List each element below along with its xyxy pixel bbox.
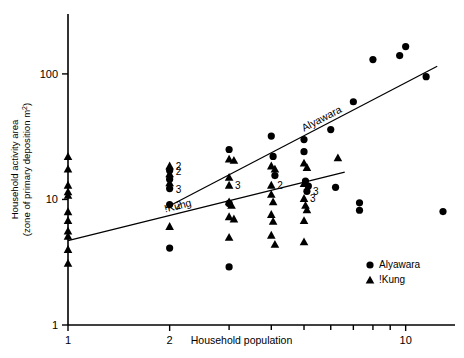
- data-point-circle: [402, 43, 409, 50]
- data-point-circle: [439, 208, 446, 215]
- data-point-triangle: [267, 210, 276, 218]
- y-tick-label: 100: [40, 68, 58, 80]
- point-count-annotation: 3: [235, 180, 241, 191]
- data-point-triangle: [300, 237, 309, 245]
- legend-label-alyawara: Alyawara: [379, 259, 421, 270]
- data-point-triangle: [64, 181, 73, 189]
- point-count-annotation: 2: [176, 161, 182, 172]
- data-point-circle: [226, 263, 233, 270]
- data-point-triangle: [269, 197, 278, 205]
- data-point-triangle: [267, 181, 276, 189]
- data-point-triangle: [301, 201, 310, 209]
- data-point-circle: [423, 73, 430, 80]
- data-point-triangle: [267, 231, 276, 239]
- x-tick-label: 2: [167, 334, 173, 346]
- data-point-triangle: [225, 181, 234, 189]
- data-point-circle: [327, 126, 334, 133]
- x-tick-label: 10: [400, 334, 412, 346]
- y-axis-title-line2: (zone of primary deposition m2): [21, 103, 33, 236]
- data-point-circle: [300, 148, 307, 155]
- data-point-triangle: [64, 207, 73, 215]
- data-point-circle: [332, 184, 339, 191]
- data-point-triangle: [64, 259, 73, 267]
- point-count-annotation: 2: [277, 180, 283, 191]
- data-point-circle: [270, 153, 277, 160]
- point-count-annotation: 3: [176, 184, 182, 195]
- data-point-triangle: [271, 240, 280, 248]
- data-point-circle: [166, 201, 173, 208]
- data-point-circle: [300, 136, 307, 143]
- x-tick-label: 1: [65, 334, 71, 346]
- data-point-triangle: [64, 245, 73, 253]
- data-point-circle: [366, 261, 373, 268]
- data-point-circle: [166, 244, 173, 251]
- data-point-circle: [396, 52, 403, 59]
- x-axis-title: Household population: [191, 334, 293, 346]
- data-point-circle: [271, 172, 278, 179]
- data-point-triangle: [334, 153, 343, 161]
- figure-container: 1101001210Alyawara!Kung23232323Household…: [0, 0, 464, 358]
- y-axis-title-line1: Household activity area: [9, 119, 20, 219]
- data-point-triangle: [366, 276, 375, 284]
- data-point-triangle: [165, 162, 174, 170]
- point-count-annotation: 2: [176, 200, 182, 211]
- data-point-circle: [356, 199, 363, 206]
- scatter-plot: 1101001210Alyawara!Kung23232323Household…: [0, 0, 464, 358]
- data-point-triangle: [269, 217, 278, 225]
- data-point-triangle: [165, 222, 174, 230]
- data-point-triangle: [300, 194, 309, 202]
- legend-label-kung: !Kung: [379, 274, 405, 285]
- data-point-circle: [356, 207, 363, 214]
- data-point-triangle: [64, 165, 73, 173]
- data-point-circle: [268, 132, 275, 139]
- data-point-triangle: [64, 152, 73, 160]
- y-tick-label: 10: [46, 193, 58, 205]
- y-tick-label: 1: [52, 319, 58, 331]
- data-point-circle: [350, 98, 357, 105]
- data-point-triangle: [225, 233, 234, 241]
- data-point-circle: [369, 56, 376, 63]
- data-point-triangle: [300, 216, 309, 224]
- point-count-annotation: 3: [310, 193, 316, 204]
- data-point-circle: [226, 146, 233, 153]
- data-point-triangle: [64, 216, 73, 224]
